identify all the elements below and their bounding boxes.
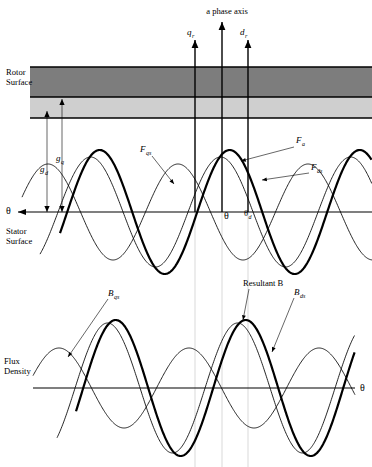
a-phase-axis-arrowhead xyxy=(219,22,226,30)
rotor-dark-band xyxy=(30,67,372,97)
machine-mmf-flux-diagram: gdgq qrdr FqsFaFdsBqsResultant BBdsθθθdθ… xyxy=(0,0,372,467)
theta-left-upper: θ xyxy=(6,205,11,216)
d-axis-arrowhead xyxy=(245,40,252,48)
flux-ds-leader xyxy=(272,298,294,352)
mmf-qs-arrowhead xyxy=(169,179,174,184)
mmf-qs-leader xyxy=(152,156,174,184)
rotor-light-band xyxy=(30,97,372,118)
stator-surface-label-line2: Surface xyxy=(6,236,32,246)
mmf-a-leader xyxy=(241,147,294,161)
gap-d-arrowhead-bottom xyxy=(44,206,49,212)
reference-lines-group xyxy=(195,212,248,467)
mmf-axis-left-arrowhead xyxy=(18,209,26,215)
flux-density-label-line1: Flux xyxy=(4,356,20,366)
mmf-qs-label: Fqs xyxy=(139,144,152,156)
theta-center: θ xyxy=(224,210,229,221)
gap-q-label: gq xyxy=(56,153,64,165)
flux-density-label-line2: Density xyxy=(4,366,31,376)
stator-surface-label-line1: Stator xyxy=(6,226,27,236)
mmf-ds-arrowhead xyxy=(262,177,267,181)
flux-qs-leader xyxy=(68,299,108,357)
q-axis-arrowhead xyxy=(192,40,199,48)
rotor-surface-label-line2: Surface xyxy=(6,77,32,87)
q-axis-label: qr xyxy=(187,27,195,39)
gap-d-label: gd xyxy=(40,164,49,176)
diagram-canvas: gdgq qrdr FqsFaFdsBqsResultant BBdsθθθdθ… xyxy=(0,0,372,467)
flux-ds-label: Bds xyxy=(294,287,306,299)
mmf-ds-label: Fds xyxy=(310,162,323,174)
resultant-b-label: Resultant B xyxy=(243,278,284,288)
theta-lower-right: θ xyxy=(360,382,365,393)
rotor-surface-group xyxy=(30,67,372,118)
annotations-group: FqsFaFdsBqsResultant BBdsθθθdθ xyxy=(6,135,365,393)
page-title: a phase axis xyxy=(206,6,248,16)
flux-ds-arrowhead xyxy=(272,347,276,352)
mmf-a-label: Fa xyxy=(295,135,305,147)
mmf-ds-leader xyxy=(262,173,309,180)
d-axis-label: dr xyxy=(240,27,248,39)
rotor-surface-label-line1: Rotor xyxy=(6,67,26,77)
flux-qs-label: Bqs xyxy=(108,288,120,300)
